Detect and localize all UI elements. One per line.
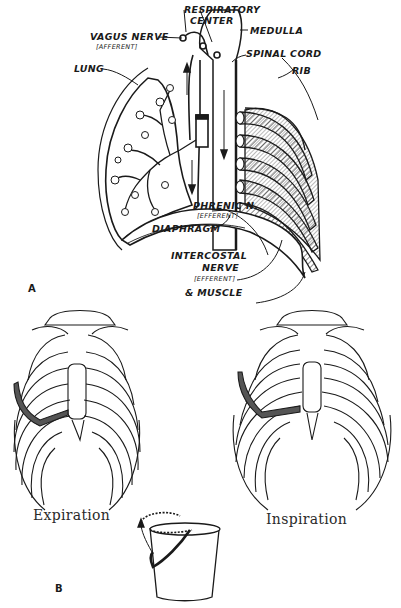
panel-letter-b: B bbox=[55, 583, 63, 594]
ribcage-inspiration bbox=[233, 311, 391, 511]
ribcage-expiration bbox=[14, 311, 140, 511]
bucket-illustration bbox=[138, 513, 220, 601]
caption-inspiration: Inspiration bbox=[266, 511, 347, 527]
caption-expiration: Expiration bbox=[33, 507, 110, 523]
